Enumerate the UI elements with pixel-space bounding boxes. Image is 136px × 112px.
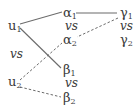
vs-label-gamma: vs xyxy=(120,20,133,33)
node-u1: u1 xyxy=(8,19,21,36)
node-beta2: β2 xyxy=(63,91,76,108)
vs-label-u: vs xyxy=(10,48,23,61)
vs-label-alpha: vs xyxy=(65,20,78,33)
node-alpha2: α2 xyxy=(63,33,77,50)
node-u2: u2 xyxy=(8,75,21,92)
edge-g1-a2 xyxy=(77,18,118,37)
edge-u1-a1 xyxy=(20,12,62,24)
node-gamma2: γ2 xyxy=(120,33,133,50)
vs-label-beta: vs xyxy=(65,77,78,90)
edge-u2-b2 xyxy=(20,87,61,97)
